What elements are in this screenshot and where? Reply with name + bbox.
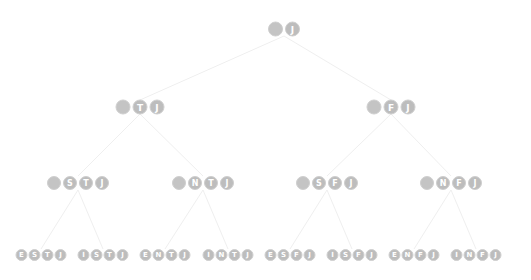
node-circle bbox=[116, 100, 131, 115]
node-circle: J bbox=[490, 249, 502, 261]
node-circle: T bbox=[133, 100, 148, 115]
tree-node-root: J bbox=[268, 22, 300, 37]
node-circle: I bbox=[327, 249, 339, 261]
tree-node-tj: T J bbox=[116, 100, 165, 115]
node-circle: N bbox=[464, 249, 476, 261]
node-circle: F bbox=[328, 176, 342, 190]
node-circle bbox=[268, 22, 283, 37]
node-circle: E bbox=[16, 249, 28, 261]
tree-edges bbox=[0, 0, 531, 280]
node-circle: T bbox=[166, 249, 178, 261]
tree-node-sfj: S F J bbox=[296, 176, 358, 190]
node-circle bbox=[367, 100, 382, 115]
node-circle: E bbox=[140, 249, 152, 261]
node-circle: J bbox=[220, 176, 234, 190]
node-circle: J bbox=[285, 22, 300, 37]
node-circle: F bbox=[291, 249, 303, 261]
node-circle bbox=[172, 176, 186, 190]
node-circle: T bbox=[229, 249, 241, 261]
node-circle: J bbox=[242, 249, 254, 261]
node-circle: S bbox=[91, 249, 103, 261]
node-circle: F bbox=[384, 100, 399, 115]
tree-leaf-enfj: E N F J bbox=[389, 249, 440, 261]
node-circle: E bbox=[265, 249, 277, 261]
node-circle: T bbox=[42, 249, 54, 261]
node-circle: F bbox=[452, 176, 466, 190]
node-circle: N bbox=[436, 176, 450, 190]
node-circle: J bbox=[468, 176, 482, 190]
node-circle: F bbox=[477, 249, 489, 261]
node-circle: S bbox=[312, 176, 326, 190]
tree-node-nfj: N F J bbox=[420, 176, 482, 190]
tree-node-stj: S T J bbox=[47, 176, 109, 190]
node-circle: J bbox=[55, 249, 67, 261]
node-circle bbox=[296, 176, 310, 190]
node-circle: E bbox=[389, 249, 401, 261]
node-circle: S bbox=[340, 249, 352, 261]
node-circle: T bbox=[204, 176, 218, 190]
tree-leaf-esfj: E S F J bbox=[265, 249, 316, 261]
tree-node-fj: F J bbox=[367, 100, 416, 115]
tree-leaf-infj: I N F J bbox=[451, 249, 502, 261]
node-circle: N bbox=[153, 249, 165, 261]
node-circle: S bbox=[29, 249, 41, 261]
node-circle: J bbox=[95, 176, 109, 190]
node-circle bbox=[420, 176, 434, 190]
node-circle: T bbox=[79, 176, 93, 190]
node-circle: I bbox=[451, 249, 463, 261]
node-circle: T bbox=[104, 249, 116, 261]
node-circle: J bbox=[117, 249, 129, 261]
node-circle: J bbox=[428, 249, 440, 261]
node-circle: J bbox=[401, 100, 416, 115]
node-circle: J bbox=[150, 100, 165, 115]
node-circle: S bbox=[63, 176, 77, 190]
node-circle: N bbox=[402, 249, 414, 261]
node-circle: N bbox=[188, 176, 202, 190]
node-circle: I bbox=[203, 249, 215, 261]
node-circle: N bbox=[216, 249, 228, 261]
node-circle: S bbox=[278, 249, 290, 261]
node-circle: F bbox=[353, 249, 365, 261]
tree-leaf-intj: I N T J bbox=[203, 249, 254, 261]
node-circle: J bbox=[344, 176, 358, 190]
tree-leaf-entj: E N T J bbox=[140, 249, 191, 261]
node-circle: J bbox=[366, 249, 378, 261]
node-circle: I bbox=[78, 249, 90, 261]
node-circle bbox=[47, 176, 61, 190]
tree-node-ntj: N T J bbox=[172, 176, 234, 190]
tree-leaf-istj: I S T J bbox=[78, 249, 129, 261]
tree-leaf-isfj: I S F J bbox=[327, 249, 378, 261]
node-circle: J bbox=[304, 249, 316, 261]
node-circle: F bbox=[415, 249, 427, 261]
tree-leaf-estj: E S T J bbox=[16, 249, 67, 261]
node-circle: J bbox=[179, 249, 191, 261]
